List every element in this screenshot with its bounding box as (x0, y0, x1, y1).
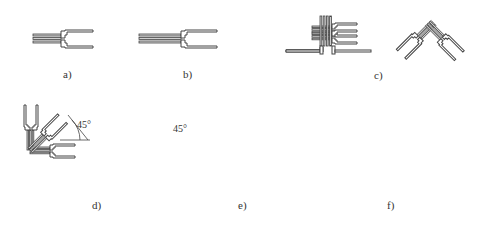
panel-label-f: f) (387, 199, 394, 211)
panel-b-gauge (139, 30, 217, 48)
angle-label-d-right: 45° (173, 123, 187, 134)
panel-c-stacked-rosette (286, 16, 371, 54)
panel-label-d: d) (92, 199, 101, 211)
strain-gauge-diagram (0, 0, 494, 227)
angle-label-d-left: 45° (77, 119, 91, 130)
panel-label-a: a) (63, 68, 72, 80)
panel-label-c: c) (374, 69, 383, 81)
panel-d-stacked-rosette (24, 105, 90, 158)
panel-label-b: b) (183, 68, 192, 80)
panel-c-planar-rosette (396, 18, 464, 61)
panel-label-e: e) (238, 199, 247, 211)
panel-a-gauge (33, 30, 93, 48)
